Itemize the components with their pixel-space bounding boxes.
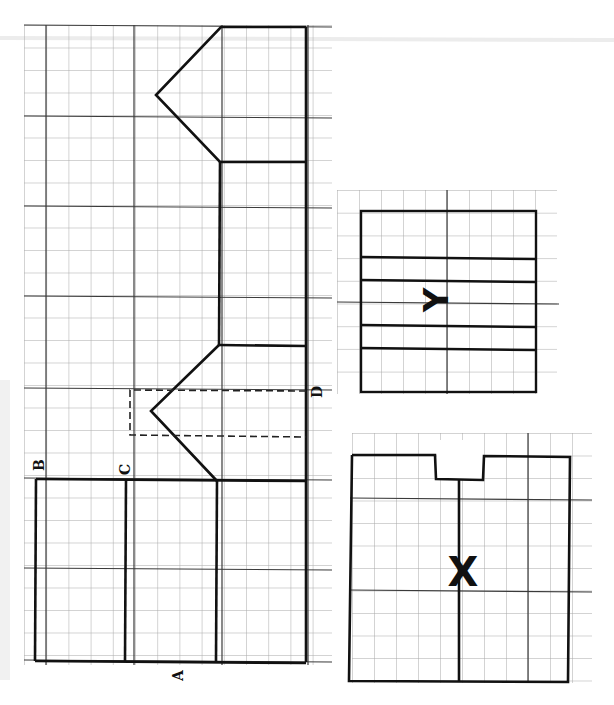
scan-shadow (0, 380, 10, 680)
label-c: C (117, 464, 133, 475)
label-y: Y (416, 287, 456, 313)
label-x: X (448, 549, 479, 595)
diagram-canvas: B C D A Y X (0, 0, 614, 705)
label-d: D (309, 386, 325, 398)
label-b: B (31, 459, 47, 471)
label-a: A (170, 669, 186, 682)
